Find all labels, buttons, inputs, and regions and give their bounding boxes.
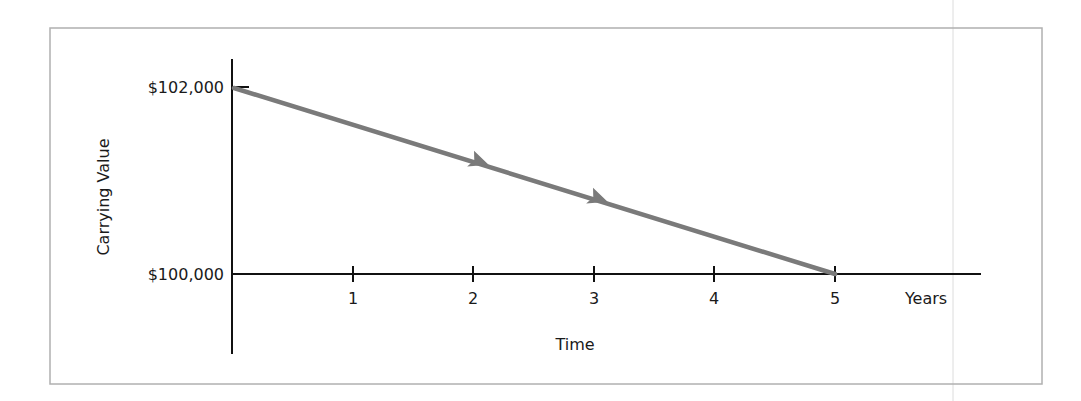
y-axis-title: Carrying Value [94, 138, 113, 255]
x-tick-label-2: 2 [468, 289, 478, 308]
x-tick-label-3: 3 [589, 289, 599, 308]
y-tick-label-102000: $102,000 [148, 78, 224, 97]
carrying-value-line [234, 88, 835, 274]
x-tick-label-4: 4 [709, 289, 719, 308]
y-tick-label-100000: $100,000 [148, 265, 224, 284]
x-axis-title: Time [554, 335, 594, 354]
chart-canvas: $102,000 $100,000 1 2 3 4 5 Years Time C… [0, 0, 1081, 401]
x-unit-label: Years [904, 289, 947, 308]
x-tick-label-1: 1 [348, 289, 358, 308]
direction-arrows [467, 150, 610, 209]
x-tick-label-5: 5 [830, 289, 840, 308]
